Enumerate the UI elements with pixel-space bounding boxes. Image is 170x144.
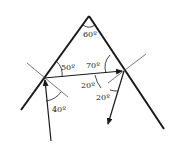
right-internal-angle-label: 20º [81, 81, 95, 90]
internal-angle-label: 70º [86, 61, 100, 70]
left-refraction-angle-label: 50º [61, 63, 75, 72]
prism-left-face [21, 16, 89, 110]
apex-angle-arc [83, 25, 95, 27]
apex-angle-label: 60º [83, 30, 97, 39]
emergence-angle-label: 20º [96, 93, 110, 102]
incidence-angle-arc [46, 92, 61, 101]
prism-refraction-diagram: 60º 50º 40º 70º 20º 20º [0, 0, 170, 144]
incidence-angle-label: 40º [52, 105, 66, 114]
emergence-angle-arc [110, 90, 118, 91]
internal-angle-arc [105, 55, 110, 73]
incident-ray [45, 80, 51, 141]
right-normal-line [108, 54, 146, 83]
right-internal-angle-arc [95, 75, 101, 88]
emergent-ray [108, 71, 124, 124]
refracted-ray [44, 71, 122, 78]
